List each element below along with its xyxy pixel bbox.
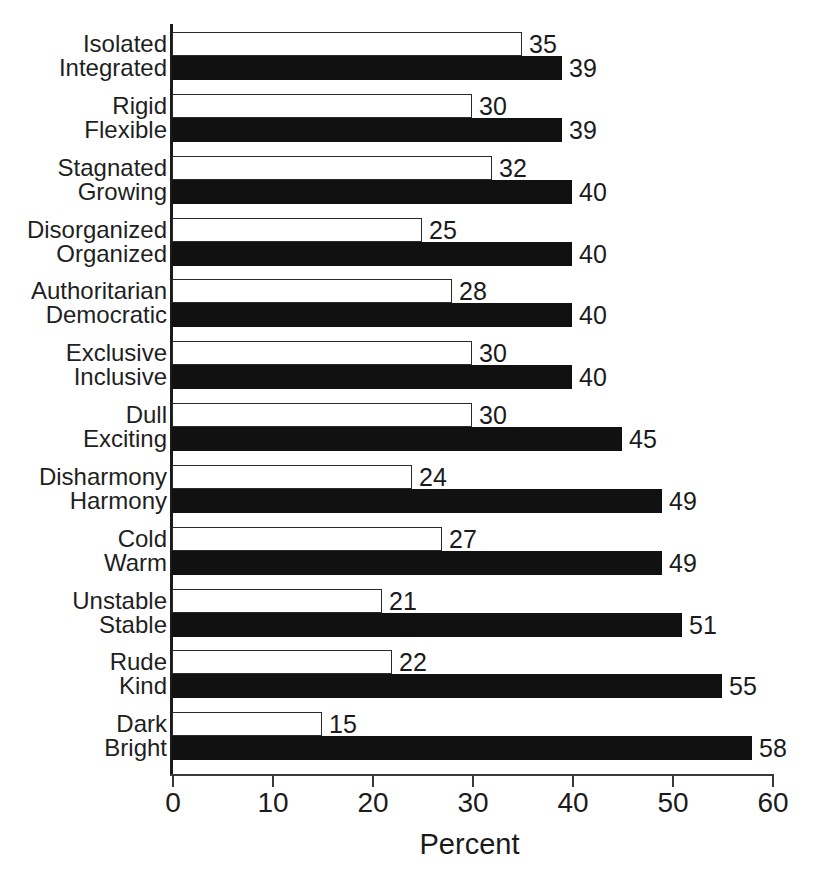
bar-growing[interactable]: [172, 180, 572, 204]
bar-row: 30: [172, 94, 772, 118]
x-tick-label: 0: [165, 789, 181, 817]
bar-value-label: 30: [472, 93, 507, 118]
bar-row: 39: [172, 56, 772, 80]
bar-organized[interactable]: [172, 242, 572, 266]
bar-value-label: 58: [752, 736, 787, 761]
bar-disorganized[interactable]: [172, 218, 422, 242]
bar-value-label: 49: [662, 550, 697, 575]
x-tick: [772, 776, 774, 787]
bar-row: 58: [172, 736, 772, 760]
bar-row: 55: [172, 674, 772, 698]
bar-row: 45: [172, 427, 772, 451]
category-label-rigid: Rigid: [0, 94, 167, 118]
x-tick-label: 10: [257, 789, 288, 817]
bar-value-label: 49: [662, 488, 697, 513]
bar-row: 24: [172, 465, 772, 489]
category-label-democratic: Democratic: [0, 303, 167, 327]
bar-disharmony[interactable]: [172, 465, 412, 489]
category-label-dark: Dark: [0, 712, 167, 736]
bar-row: 32: [172, 156, 772, 180]
bar-row: 40: [172, 365, 772, 389]
category-label-stagnated: Stagnated: [0, 156, 167, 180]
category-label-disharmony: Disharmony: [0, 465, 167, 489]
bar-stagnated[interactable]: [172, 156, 492, 180]
category-label-integrated: Integrated: [0, 56, 167, 80]
bar-value-label: 22: [392, 650, 427, 675]
bar-row: 51: [172, 613, 772, 637]
bar-value-label: 27: [442, 526, 477, 551]
bar-warm[interactable]: [172, 551, 662, 575]
bar-value-label: 40: [572, 179, 607, 204]
bar-exclusive[interactable]: [172, 341, 472, 365]
bar-value-label: 40: [572, 241, 607, 266]
category-label-disorganized: Disorganized: [0, 218, 167, 242]
bar-bright[interactable]: [172, 736, 752, 760]
bar-authoritarian[interactable]: [172, 279, 452, 303]
bar-value-label: 21: [382, 588, 417, 613]
bar-value-label: 30: [472, 403, 507, 428]
bar-value-label: 24: [412, 464, 447, 489]
category-label-cold: Cold: [0, 527, 167, 551]
x-tick-label: 40: [557, 789, 588, 817]
x-tick: [172, 776, 174, 787]
bar-row: 25: [172, 218, 772, 242]
category-label-dull: Dull: [0, 403, 167, 427]
bar-row: 35: [172, 32, 772, 56]
percent-bar-chart: 3539303932402540284030403045244927492151…: [0, 0, 815, 883]
bar-dark[interactable]: [172, 712, 322, 736]
bar-cold[interactable]: [172, 527, 442, 551]
bar-row: 22: [172, 650, 772, 674]
category-label-exclusive: Exclusive: [0, 341, 167, 365]
category-label-kind: Kind: [0, 674, 167, 698]
x-tick: [472, 776, 474, 787]
category-label-inclusive: Inclusive: [0, 365, 167, 389]
category-label-authoritarian: Authoritarian: [0, 279, 167, 303]
x-tick-label: 50: [657, 789, 688, 817]
bar-unstable[interactable]: [172, 589, 382, 613]
bar-rigid[interactable]: [172, 94, 472, 118]
bar-democratic[interactable]: [172, 303, 572, 327]
category-label-flexible: Flexible: [0, 118, 167, 142]
bar-kind[interactable]: [172, 674, 722, 698]
plot-area: 3539303932402540284030403045244927492151…: [172, 32, 772, 774]
x-tick-label: 60: [757, 789, 788, 817]
bar-row: 28: [172, 279, 772, 303]
x-tick-label: 20: [357, 789, 388, 817]
category-label-isolated: Isolated: [0, 32, 167, 56]
bar-inclusive[interactable]: [172, 365, 572, 389]
bar-row: 49: [172, 551, 772, 575]
bar-value-label: 51: [682, 612, 717, 637]
bar-value-label: 39: [562, 117, 597, 142]
category-label-bright: Bright: [0, 736, 167, 760]
bar-row: 40: [172, 303, 772, 327]
bar-flexible[interactable]: [172, 118, 562, 142]
bar-value-label: 40: [572, 365, 607, 390]
bar-rude[interactable]: [172, 650, 392, 674]
bar-value-label: 55: [722, 674, 757, 699]
bar-row: 30: [172, 341, 772, 365]
category-label-stable: Stable: [0, 613, 167, 637]
x-tick: [372, 776, 374, 787]
bar-exciting[interactable]: [172, 427, 622, 451]
bar-row: 21: [172, 589, 772, 613]
x-tick-label: 30: [457, 789, 488, 817]
category-label-warm: Warm: [0, 551, 167, 575]
bar-value-label: 25: [422, 217, 457, 242]
bar-isolated[interactable]: [172, 32, 522, 56]
category-label-organized: Organized: [0, 242, 167, 266]
bar-row: 39: [172, 118, 772, 142]
bar-row: 40: [172, 180, 772, 204]
bar-harmony[interactable]: [172, 489, 662, 513]
bar-dull[interactable]: [172, 403, 472, 427]
bar-stable[interactable]: [172, 613, 682, 637]
bar-value-label: 32: [492, 155, 527, 180]
category-label-exciting: Exciting: [0, 427, 167, 451]
bar-value-label: 35: [522, 32, 557, 57]
x-axis-title-text: Percent: [420, 828, 520, 861]
bar-value-label: 15: [322, 712, 357, 737]
bar-value-label: 40: [572, 303, 607, 328]
x-axis-title: Percent: [0, 828, 815, 861]
bar-integrated[interactable]: [172, 56, 562, 80]
bar-row: 49: [172, 489, 772, 513]
category-label-rude: Rude: [0, 650, 167, 674]
